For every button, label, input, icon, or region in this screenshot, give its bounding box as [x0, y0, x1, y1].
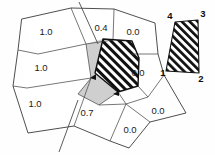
cell-value-middle-left: 1.0	[34, 62, 47, 73]
cell-value-top-mid: 0.4	[94, 22, 107, 33]
cell-value-bottom-diamond: 0.0	[123, 124, 136, 135]
cell-value-bottom-right: 0.0	[151, 105, 164, 116]
cell-value-right-mid: 0.0	[131, 67, 144, 78]
mesh-diagram-canvas: 1.0 1.0 1.0 0.4 0.0 0.0 0.7 0.0 0.0 4 3 …	[0, 0, 215, 155]
vertex-label-2: 2	[198, 73, 203, 84]
cell-value-bottom-left: 1.0	[28, 98, 41, 109]
inset-quadrilateral	[166, 20, 199, 73]
vertex-label-1: 1	[160, 67, 166, 78]
mesh-figure: 1.0 1.0 1.0 0.4 0.0 0.0 0.7 0.0 0.0 4 3 …	[0, 0, 215, 155]
vertex-label-3: 3	[200, 8, 205, 19]
cell-value-top-left: 1.0	[39, 26, 52, 37]
cell-value-top-right: 0.0	[126, 26, 139, 37]
vertex-label-4: 4	[167, 10, 173, 21]
cell-value-bottom-mid: 0.7	[80, 107, 93, 118]
